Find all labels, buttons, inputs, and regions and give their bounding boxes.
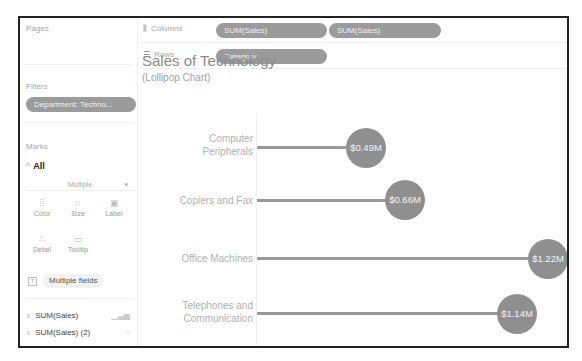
tableau-window: Pages Filters Department: Techno... Mark… [18,16,569,348]
columns-shelf-label: ⫼Columns [143,24,183,34]
marks-detail-button[interactable]: ∴ Detail [26,232,58,262]
category-label-office-machines: Office Machines [181,252,253,265]
color-dots-icon: ⁞⁞ [26,196,58,210]
chevron-down-icon: ▾ [124,178,128,191]
mark-button-label: Tooltip [68,246,88,253]
marks-all-label: All [33,161,45,171]
mark-type-value: Multiple [68,181,92,188]
category-label-line: Computer [202,132,253,145]
chart-title: Sales of Technology [142,52,276,69]
marks-label-button[interactable]: ▣ Label [98,196,130,226]
measure-tab-sum-sales[interactable]: ∨SUM(Sales) ▁▃▅ [26,309,134,323]
measure-tab-sum-sales-2[interactable]: ∨SUM(Sales) (2) ○ [26,326,134,340]
category-label-copiers-and-fax: Copiers and Fax [180,194,253,207]
chart-subtitle: (Lollipop Chart) [142,72,210,83]
chevron-down-icon: ∨ [26,329,31,336]
divider [24,298,133,299]
mark-type-dropdown[interactable]: Multiple ▾ [26,178,134,191]
lollipop-head-office-machines[interactable]: $1.22M [528,239,568,279]
category-label-line: Communication [182,312,253,325]
label-T-icon: T [28,277,37,286]
mark-button-label: Detail [33,246,51,253]
columns-icon: ⫼ [143,24,147,33]
lollipop-head-telephones-and-communication[interactable]: $1.14M [497,294,537,334]
multiple-fields-label-pill[interactable]: T Multiple fields [28,274,103,288]
lollipop-head-computer-peripherals[interactable]: $0.49M [346,128,386,168]
columns-label-text: Columns [151,24,183,33]
columns-pill-sum-sales[interactable]: SUM(Sales) [216,23,327,38]
marks-tooltip-button[interactable]: ▭ Tooltip [62,232,94,262]
chevron-down-icon: ∨ [26,312,31,319]
detail-dots-icon: ∴ [26,232,58,246]
lollipop-head-copiers-and-fax[interactable]: $0.66M [385,180,425,220]
mark-button-label: Label [105,210,122,217]
lollipop-stem[interactable] [257,257,549,260]
columns-pill-sum-sales-2[interactable]: SUM(Sales) [329,23,441,38]
divider [24,64,133,65]
bar-chart-icon: ▁▃▅ [112,309,130,323]
sidebar: Pages Filters Department: Techno... Mark… [20,18,138,346]
tooltip-bubble-icon: ▭ [62,232,94,246]
marks-size-button[interactable]: ○ Size [62,196,94,226]
measure-tab-label: SUM(Sales) (2) [35,328,90,337]
measure-tab-label: SUM(Sales) [35,311,78,320]
marks-color-button[interactable]: ⁞⁞ Color [26,196,58,226]
filter-pill-department[interactable]: Department: Techno... [26,97,136,112]
category-label-line: Office Machines [181,252,253,265]
category-label-telephones-and-communication: Telephones and Communication [182,299,253,325]
circle-icon: ○ [125,326,130,340]
chevron-up-icon: ^ [26,161,30,171]
size-circles-icon: ○ [62,196,94,210]
divider [140,42,567,43]
lollipop-stem[interactable] [257,312,518,315]
category-label-line: Peripherals [202,145,253,158]
pages-label: Pages [26,24,49,33]
multiple-fields-text: Multiple fields [43,274,103,288]
category-label-line: Telephones and [182,299,253,312]
category-label-computer-peripherals: Computer Peripherals [202,132,253,158]
filters-label: Filters [26,82,48,91]
divider [24,122,133,123]
lollipop-stem[interactable] [257,199,406,202]
mark-button-label: Size [71,210,85,217]
label-T-icon: ▣ [98,196,130,210]
mark-button-label: Color [34,210,51,217]
marks-label: Marks [26,142,48,151]
marks-all-toggle[interactable]: ^All [26,161,45,171]
category-label-line: Copiers and Fax [180,194,253,207]
